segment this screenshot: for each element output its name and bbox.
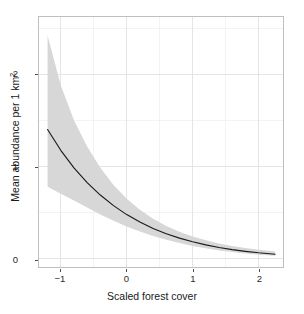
x-axis-title: Scaled forest cover xyxy=(0,290,304,302)
y-tickmark xyxy=(35,167,38,168)
plot-panel xyxy=(38,16,284,268)
x-tickmark xyxy=(259,269,260,272)
plot-area xyxy=(39,17,283,267)
x-tick-label: −1 xyxy=(54,274,65,284)
x-tickmark xyxy=(193,269,194,272)
confidence-band xyxy=(48,35,276,255)
x-tick-label: 2 xyxy=(257,274,262,284)
x-tick-label: 1 xyxy=(190,274,195,284)
y-axis-title-text: Mean abundance per 1 km xyxy=(9,77,21,202)
figure: 012 −1012 Scaled forest cover Mean abund… xyxy=(0,0,304,314)
x-tickmark xyxy=(126,269,127,272)
y-tickmark xyxy=(35,260,38,261)
y-tickmark xyxy=(35,74,38,75)
x-tickmark xyxy=(60,269,61,272)
y-axis-title: Mean abundance per 1 km2 xyxy=(9,11,22,263)
y-axis-title-superscript: 2 xyxy=(9,73,16,77)
x-tick-label: 0 xyxy=(124,274,129,284)
